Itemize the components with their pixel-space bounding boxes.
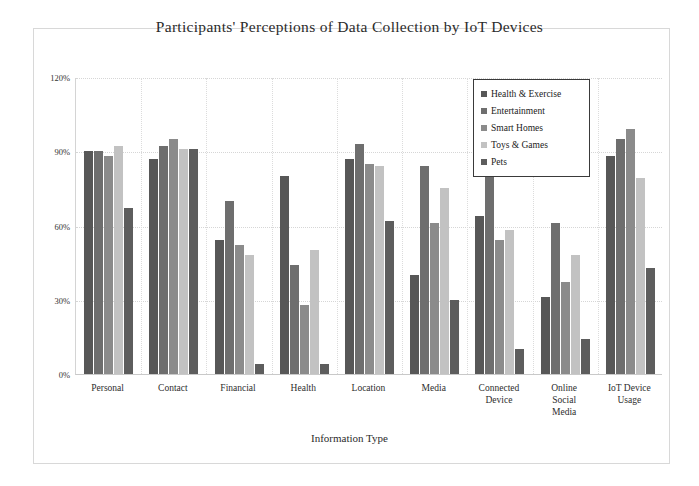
bar xyxy=(505,230,514,374)
bar xyxy=(541,297,550,374)
bar xyxy=(245,255,254,374)
bar xyxy=(375,166,384,374)
bar xyxy=(84,151,93,374)
legend-swatch-icon xyxy=(481,142,487,148)
legend-item: Health & Exercise xyxy=(481,85,583,102)
bar xyxy=(420,166,429,374)
bar xyxy=(551,223,560,374)
bar xyxy=(616,139,625,374)
bar xyxy=(430,223,439,374)
bar xyxy=(561,282,570,374)
bar xyxy=(94,151,103,374)
bar xyxy=(310,250,319,374)
bar-group xyxy=(598,78,663,374)
bar xyxy=(345,159,354,374)
bar xyxy=(225,201,234,374)
bar xyxy=(365,164,374,374)
bar xyxy=(485,166,494,374)
y-axis-tick-label: 60% xyxy=(30,222,70,232)
legend-swatch-icon xyxy=(481,91,487,97)
bar xyxy=(320,364,329,374)
bar-group xyxy=(272,78,337,374)
legend-item: Toys & Games xyxy=(481,136,583,153)
bar-group xyxy=(141,78,206,374)
bar xyxy=(581,339,590,374)
bar xyxy=(606,156,615,374)
bar xyxy=(495,240,504,374)
bar xyxy=(104,156,113,374)
legend-label: Pets xyxy=(491,157,507,167)
y-axis-tick-label: 30% xyxy=(30,296,70,306)
y-axis-tick-label: 90% xyxy=(30,147,70,157)
bar xyxy=(114,146,123,374)
bar xyxy=(636,178,645,374)
bar xyxy=(571,255,580,374)
y-axis-tick-label: 0% xyxy=(30,370,70,380)
bar xyxy=(189,149,198,374)
legend-item: Entertainment xyxy=(481,102,583,119)
bar xyxy=(290,265,299,374)
bar xyxy=(280,176,289,374)
legend-label: Health & Exercise xyxy=(491,89,561,99)
legend-label: Toys & Games xyxy=(491,140,548,150)
chart-legend: Health & ExerciseEntertainmentSmart Home… xyxy=(473,79,590,177)
legend-swatch-icon xyxy=(481,108,487,114)
legend-swatch-icon xyxy=(481,159,487,165)
chart-screenshot: Participants' Perceptions of Data Collec… xyxy=(0,0,699,486)
bar xyxy=(475,216,484,374)
bar-group xyxy=(402,78,467,374)
bar xyxy=(169,139,178,374)
bar-group xyxy=(337,78,402,374)
bar xyxy=(235,245,244,374)
bar xyxy=(255,364,264,374)
legend-item: Smart Homes xyxy=(481,119,583,136)
x-axis-title: Information Type xyxy=(0,432,699,444)
bar xyxy=(646,268,655,374)
bar xyxy=(355,144,364,374)
bar xyxy=(440,188,449,374)
bar xyxy=(159,146,168,374)
bar-group xyxy=(206,78,271,374)
bar xyxy=(515,349,524,374)
bar xyxy=(626,129,635,374)
bar xyxy=(215,240,224,374)
bar-group xyxy=(76,78,141,374)
x-axis-tick-label: IoT Device Usage xyxy=(589,382,670,406)
bar xyxy=(385,221,394,374)
bar xyxy=(179,149,188,374)
bar xyxy=(124,208,133,374)
bar xyxy=(300,305,309,374)
legend-item: Pets xyxy=(481,153,583,170)
legend-swatch-icon xyxy=(481,125,487,131)
bar xyxy=(410,275,419,374)
y-axis-tick-label: 120% xyxy=(30,73,70,83)
bar xyxy=(450,300,459,374)
bar xyxy=(149,159,158,374)
legend-label: Smart Homes xyxy=(491,123,543,133)
legend-label: Entertainment xyxy=(491,106,545,116)
